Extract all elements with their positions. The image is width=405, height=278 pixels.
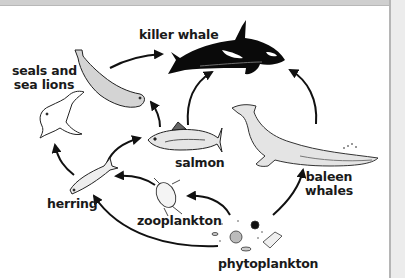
label-baleen-line2: whales [302, 184, 356, 198]
sea-lion-illustration [40, 91, 84, 138]
phytoplankton-illustration [212, 220, 282, 251]
label-baleen-line1: baleen [302, 170, 356, 184]
label-phytoplankton: phytoplankton [218, 257, 318, 271]
food-web-diagram: killer whale seals and sea lions salmon … [0, 6, 388, 278]
label-herring: herring [47, 197, 97, 211]
arrow-baleen-to-orca [290, 70, 316, 124]
arrow-herring-to-salmon [107, 138, 140, 163]
label-seals-line2: sea lions [12, 78, 76, 92]
arrow-herring-to-seals [55, 145, 74, 175]
label-seals-line1: seals and [12, 64, 76, 78]
right-scrollbar[interactable] [389, 0, 405, 278]
zooplankton-illustration [152, 178, 182, 216]
arrow-zoo-to-herring [116, 176, 155, 185]
label-salmon: salmon [175, 156, 224, 170]
baleen-whale-illustration [232, 105, 378, 167]
arrow-salmon-to-orca [188, 72, 212, 125]
arrow-salmon-to-seal [151, 102, 160, 127]
arrow-phyto-to-baleen [273, 170, 303, 215]
herring-illustration [70, 158, 118, 194]
food-web-artwork [0, 6, 388, 278]
label-zooplankton: zooplankton [137, 214, 222, 228]
label-seals-and-sea-lions: seals and sea lions [12, 64, 76, 92]
label-baleen-whales: baleen whales [302, 170, 356, 198]
arrow-seal-to-orca [110, 54, 162, 68]
label-killer-whale: killer whale [139, 28, 218, 42]
